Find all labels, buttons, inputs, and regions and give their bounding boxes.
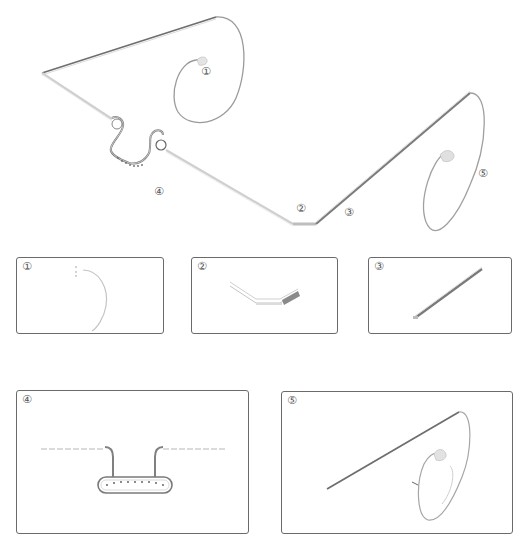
detail-panel-1: ① [16,257,164,334]
callout-5: ⑤ [478,168,488,179]
callout-1: ① [201,66,211,77]
callout-3: ③ [344,207,354,218]
nose-bridge-illustration [17,391,250,535]
detail-panel-2: ② [191,257,338,334]
callout-2: ② [296,203,306,214]
detail-panel-3: ③ [368,257,512,334]
eyeglass-frame-illustration [0,0,525,250]
detail-panel-4: ④ [16,390,249,534]
temple-and-rim-illustration [282,392,514,535]
detail-panel-5: ⑤ [281,391,513,534]
temple-arm-illustration [369,258,513,335]
main-eyeglass-drawing: ① ② ③ ④ ⑤ [0,0,525,250]
lens-rim-segment-illustration [17,258,165,335]
callout-4: ④ [154,186,164,197]
hinge-bend-illustration [192,258,339,335]
